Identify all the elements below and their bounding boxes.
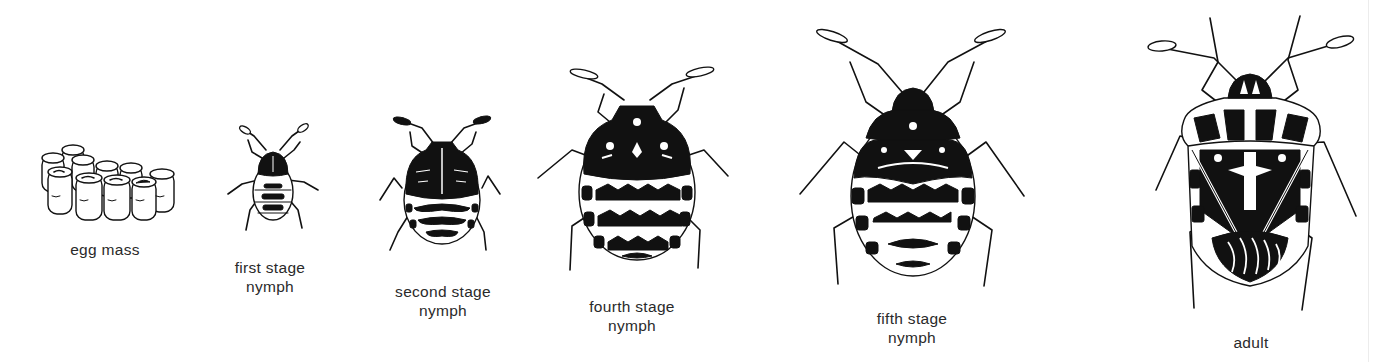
- fourth-stage-nymph-illustration: [532, 66, 742, 286]
- label-fifth-stage-nymph: fifth stage nymph: [877, 309, 948, 347]
- label-egg-mass: egg mass: [70, 240, 140, 259]
- scan-edge-line: [1368, 0, 1369, 362]
- label-adult: adult: [1233, 333, 1268, 352]
- second-stage-nymph-illustration: [372, 112, 512, 262]
- adult-illustration: [1128, 10, 1368, 330]
- first-stage-nymph-illustration: [218, 118, 328, 238]
- label-second-stage-nymph: second stage nymph: [395, 282, 491, 320]
- egg-mass-illustration: [38, 142, 178, 222]
- label-first-stage-nymph: first stage nymph: [235, 258, 306, 296]
- label-fourth-stage-nymph: fourth stage nymph: [589, 297, 674, 335]
- fifth-stage-nymph-illustration: [794, 28, 1034, 308]
